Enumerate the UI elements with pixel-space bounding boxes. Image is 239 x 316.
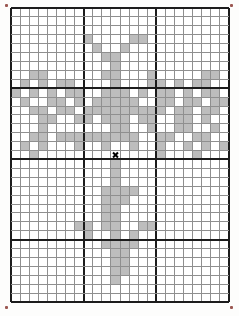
grid-line-horizontal [11,150,229,151]
grid-line-horizontal [11,16,229,17]
grid-line-horizontal [11,293,229,294]
grid-line-horizontal [11,34,229,35]
grid-line-horizontal [11,204,229,205]
grid-line-horizontal [11,177,229,178]
grid-line-horizontal [11,43,229,44]
grid-line-horizontal [11,248,229,249]
page-corner-mark [5,4,8,7]
grid-line-horizontal [11,132,229,133]
stitch-grid [11,8,229,302]
grid-line-horizontal [11,61,229,62]
grid-line-bold-horizontal [11,87,229,89]
grid-line-horizontal [11,266,229,267]
grid-line-horizontal [11,284,229,285]
grid-line-bold-horizontal [11,301,229,303]
grid-line-horizontal [11,195,229,196]
grid-line-horizontal [11,52,229,53]
grid-line-bold-horizontal [11,158,229,160]
center-stitch-marker [111,151,120,160]
grid-line-horizontal [11,106,229,107]
grid-line-horizontal [11,275,229,276]
grid-line-horizontal [11,186,229,187]
grid-line-bold-horizontal [11,239,229,241]
grid-line-horizontal [11,168,229,169]
page-corner-mark [230,306,233,309]
grid-line-horizontal [11,97,229,98]
grid-line-horizontal [11,221,229,222]
grid-line-horizontal [11,79,229,80]
grid-line-horizontal [11,141,229,142]
page-corner-mark [230,4,233,7]
grid-line-horizontal [11,212,229,213]
grid-line-horizontal [11,70,229,71]
grid-line-horizontal [11,123,229,124]
grid-line-horizontal [11,257,229,258]
grid-line-horizontal [11,230,229,231]
page-corner-mark [5,306,8,309]
grid-line-horizontal [11,25,229,26]
grid-line-horizontal [11,114,229,115]
grid-line-bold-horizontal [11,7,229,9]
